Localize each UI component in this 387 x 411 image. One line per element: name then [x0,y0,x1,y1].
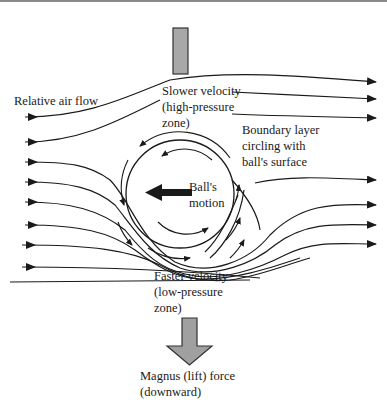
label-zone-bottom: zone) [154,300,182,316]
label-high-pressure: (high-pressure [162,99,234,115]
label-zone-top: zone) [162,115,190,131]
magnus-force-arrow [167,318,212,365]
force-arrow-tail [173,28,188,74]
label-motion: motion [189,195,224,211]
label-faster-velocity: Faster velocity [154,268,228,284]
inflow-arrowheads [26,113,38,271]
label-low-pressure: (low-pressure [154,284,223,300]
label-balls-surface: ball's surface [242,154,307,170]
ball-motion-arrow [145,184,192,201]
label-circling-with: circling with [242,138,306,154]
label-boundary-layer: Boundary layer [242,122,319,138]
label-magnus-force: Magnus (lift) force [140,368,235,384]
label-slower-velocity: Slower velocity [162,83,241,99]
label-downward: (downward) [140,384,201,400]
label-relative-air-flow: Relative air flow [14,93,98,109]
label-balls: Ball's [189,179,217,195]
